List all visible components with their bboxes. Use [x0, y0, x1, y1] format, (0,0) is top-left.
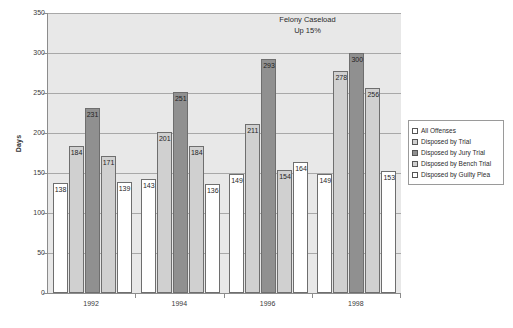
bar-1994-series-4: 184 [189, 146, 204, 293]
legend-label: Disposed by Trial [421, 138, 471, 145]
bar-1998-series-1: 149 [317, 174, 332, 293]
bar-value-label: 143 [143, 182, 155, 190]
plot-area: 1381842311711391432012511841361492112931… [47, 13, 401, 294]
bar-1992-series-1: 138 [53, 183, 68, 293]
legend-label: Disposed by Guilty Plea [421, 171, 490, 178]
felony-caseload-bar-chart: Days 13818423117113914320125118413614921… [0, 0, 513, 328]
bar-value-label: 201 [159, 135, 171, 143]
x-tick-mark [400, 294, 401, 298]
x-tick-label-1992: 1992 [61, 300, 121, 307]
bar-1992-series-4: 171 [101, 156, 116, 293]
bar-value-label: 136 [207, 187, 219, 195]
bar-group-1994: 143201251184136 [136, 13, 224, 293]
bar-1992-series-2: 184 [69, 146, 84, 293]
bar-value-label: 164 [295, 165, 307, 173]
bar-value-label: 171 [103, 159, 115, 167]
legend-item-1[interactable]: All Offenses [412, 125, 500, 136]
bar-1998-series-4: 256 [365, 88, 380, 293]
bar-value-label: 153 [383, 174, 395, 182]
legend-swatch-icon [412, 161, 418, 167]
bar-group-1992: 138184231171139 [48, 13, 136, 293]
annotation-line-2: Up 15% [225, 25, 390, 36]
bar-1992-series-5: 139 [117, 182, 132, 293]
legend-label: Disposed by Jury Trial [421, 149, 485, 156]
bar-1996-series-5: 164 [293, 162, 308, 293]
y-tick-mark [43, 253, 47, 254]
bar-value-label: 184 [191, 149, 203, 157]
bar-1996-series-1: 149 [229, 174, 244, 293]
bar-1994-series-5: 136 [205, 184, 220, 293]
annotation-line-1: Felony Caseload [225, 14, 390, 25]
bar-value-label: 293 [263, 62, 275, 70]
plot-inner: 1381842311711391432012511841361492112931… [48, 13, 401, 293]
chart-legend: All OffensesDisposed by TrialDisposed by… [408, 120, 504, 185]
x-tick-mark [312, 294, 313, 298]
bar-1998-series-5: 153 [381, 171, 396, 293]
y-tick-mark [43, 293, 47, 294]
bar-value-label: 154 [279, 173, 291, 181]
legend-label: Disposed by Bench Trial [421, 160, 491, 167]
bar-1998-series-2: 278 [333, 71, 348, 293]
bar-value-label: 139 [119, 185, 131, 193]
y-tick-mark [43, 93, 47, 94]
bar-1992-series-3: 231 [85, 108, 100, 293]
y-tick-mark [43, 213, 47, 214]
bar-value-label: 149 [231, 177, 243, 185]
legend-item-2[interactable]: Disposed by Trial [412, 136, 500, 147]
y-tick-label: 0 [5, 289, 45, 296]
bar-value-label: 251 [175, 95, 187, 103]
bar-value-label: 184 [71, 149, 83, 157]
x-tick-mark [224, 294, 225, 298]
bar-1994-series-3: 251 [173, 92, 188, 293]
y-tick-label: 300 [5, 49, 45, 56]
x-tick-label-1994: 1994 [149, 300, 209, 307]
bar-1994-series-1: 143 [141, 179, 156, 293]
x-tick-label-1996: 1996 [238, 300, 298, 307]
y-tick-mark [43, 133, 47, 134]
x-tick-label-1998: 1998 [326, 300, 386, 307]
legend-item-3[interactable]: Disposed by Jury Trial [412, 147, 500, 158]
bar-group-1998: 149278300256153 [313, 13, 401, 293]
y-tick-label: 100 [5, 209, 45, 216]
x-tick-mark [135, 294, 136, 298]
bar-value-label: 278 [335, 74, 347, 82]
y-tick-label: 250 [5, 89, 45, 96]
chart-annotation: Felony CaseloadUp 15% [225, 14, 390, 36]
y-tick-label: 200 [5, 129, 45, 136]
legend-item-4[interactable]: Disposed by Bench Trial [412, 158, 500, 169]
y-tick-label: 150 [5, 169, 45, 176]
legend-swatch-icon [412, 128, 418, 134]
y-tick-mark [43, 53, 47, 54]
y-tick-label: 50 [5, 249, 45, 256]
y-axis-title: Days [15, 114, 22, 174]
bar-value-label: 231 [87, 111, 99, 119]
y-tick-mark [43, 173, 47, 174]
legend-swatch-icon [412, 172, 418, 178]
y-tick-label: 350 [5, 9, 45, 16]
legend-swatch-icon [412, 150, 418, 156]
legend-item-5[interactable]: Disposed by Guilty Plea [412, 169, 500, 180]
bar-value-label: 149 [319, 177, 331, 185]
bar-1994-series-2: 201 [157, 132, 172, 293]
legend-label: All Offenses [421, 127, 456, 134]
y-tick-mark [43, 13, 47, 14]
bar-1996-series-4: 154 [277, 170, 292, 293]
bar-value-label: 211 [247, 127, 258, 135]
legend-swatch-icon [412, 139, 418, 145]
bar-value-label: 256 [367, 91, 379, 99]
bar-value-label: 300 [351, 56, 363, 64]
bar-group-1996: 149211293154164 [225, 13, 313, 293]
bar-1996-series-2: 211 [245, 124, 260, 293]
bar-1998-series-3: 300 [349, 53, 364, 293]
bar-value-label: 138 [55, 186, 67, 194]
bar-1996-series-3: 293 [261, 59, 276, 293]
